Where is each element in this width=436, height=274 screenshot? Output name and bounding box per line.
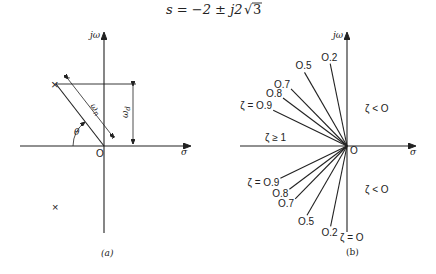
b-zeta-neg-lower-label: ζ < O	[365, 184, 389, 196]
b-lower-ray-zeta-0_2	[331, 146, 347, 226]
b-lower-ray-label-zeta-0_7: O.7	[278, 198, 295, 209]
b-sigma-label: σ	[410, 147, 417, 157]
sqrt-argument: 3	[253, 2, 261, 17]
b-jw-label: jω	[331, 30, 344, 40]
a-jw-label: jω	[88, 30, 101, 40]
a-wn-ext-1	[64, 77, 70, 78]
root-locus-figure: s = −2 ± j2 √ 3 jω σ O × ωn ωd θ × (a) j…	[0, 0, 436, 274]
b-upper-ray-zeta-0_2	[330, 64, 347, 146]
title-equation: s = −2 ± j2 √ 3	[166, 2, 262, 17]
b-damping-rays: O.2O.5O.7O.8ζ = O.9ζ = O.9O.8O.7O.5O.2	[240, 52, 347, 239]
a-pole-lower: ×	[52, 201, 58, 213]
b-caption: (b)	[346, 247, 359, 257]
figure-b: jω σ O ζ ≥ 1 ζ < O ζ < O ζ = O O.2O.5O.7…	[240, 30, 417, 257]
b-zeta-zero-label: ζ = O	[340, 232, 364, 244]
b-lower-ray-zeta-0_9	[280, 146, 347, 178]
b-upper-ray-label-zeta-0_5: O.5	[295, 60, 312, 71]
a-pole-upper: ×	[51, 77, 59, 92]
b-zeta-neg-upper-label: ζ < O	[365, 103, 389, 115]
b-lower-ray-zeta-0_8	[289, 146, 347, 189]
b-upper-ray-label-zeta-0_2: O.2	[321, 52, 338, 63]
a-theta-label: θ	[74, 127, 80, 137]
equation-text: s = −2 ± j2	[166, 2, 242, 17]
figure-a: jω σ O × ωn ωd θ × (a)	[20, 30, 190, 258]
a-origin-label: O	[96, 148, 104, 159]
sqrt-symbol: √	[244, 2, 253, 17]
b-upper-ray-zeta-0_8	[283, 98, 347, 146]
b-origin-label: O	[350, 145, 358, 156]
b-upper-ray-label-zeta-0_9: ζ = O.9	[240, 100, 272, 112]
a-wn-label: ωn	[87, 101, 104, 118]
a-wd-label: ωd	[120, 106, 132, 118]
b-lower-ray-label-zeta-0_5: O.5	[298, 216, 315, 227]
b-zeta-ge1-label: ζ ≥ 1	[265, 132, 286, 144]
b-upper-ray-label-zeta-0_8: O.8	[266, 88, 283, 99]
b-lower-ray-label-zeta-0_2: O.2	[322, 227, 339, 238]
a-caption: (a)	[101, 248, 114, 258]
a-sigma-label: σ	[181, 147, 188, 157]
